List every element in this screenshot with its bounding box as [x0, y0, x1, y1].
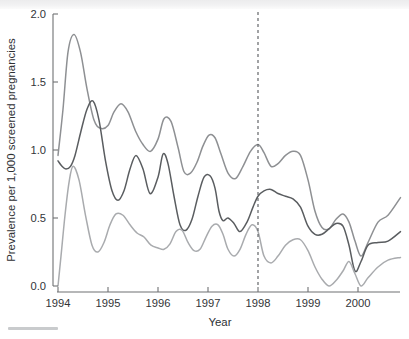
y-tick-label-0-5: 0.5 — [30, 212, 46, 224]
x-tick-label-2000: 2000 — [346, 297, 371, 309]
y-axis-title: Prevalence per 1,000 screened pregnancie… — [5, 38, 17, 262]
axis-label-layer: 19941995199619971998199920000.00.51.01.5… — [5, 8, 370, 328]
caption-separator-rule — [8, 327, 58, 330]
axis-layer — [53, 14, 400, 292]
x-axis-title: Year — [208, 316, 231, 328]
x-tick-label-1994: 1994 — [46, 297, 71, 309]
x-tick-label-1999: 1999 — [296, 297, 321, 309]
series-lower-curve — [58, 166, 401, 286]
y-tick-label-1-5: 1.5 — [30, 76, 46, 88]
figure-panel: 19941995199619971998199920000.00.51.01.5… — [0, 0, 409, 339]
y-tick-label-2-0: 2.0 — [30, 8, 46, 20]
series-middle-curve — [58, 101, 401, 272]
y-tick-label-1-0: 1.0 — [30, 144, 46, 156]
x-tick-label-1998: 1998 — [246, 297, 271, 309]
x-tick-label-1996: 1996 — [146, 297, 171, 309]
y-tick-label-0-0: 0.0 — [30, 280, 46, 292]
prevalence-line-chart: 19941995199619971998199920000.00.51.01.5… — [0, 0, 409, 339]
x-tick-label-1995: 1995 — [96, 297, 121, 309]
x-tick-label-1997: 1997 — [196, 297, 221, 309]
series-layer — [58, 34, 401, 286]
series-upper-curve — [58, 34, 401, 256]
